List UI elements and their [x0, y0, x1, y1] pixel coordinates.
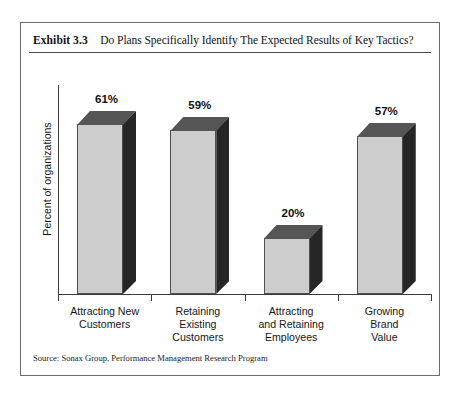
bar-3[interactable]: [264, 225, 323, 294]
bar-front-face: [170, 130, 216, 294]
y-axis-label: Percent of organizations: [41, 89, 53, 269]
category-label-line: Brand: [325, 318, 443, 331]
source-note: Source: Sonax Group, Performance Managem…: [33, 353, 268, 363]
bar-2[interactable]: [170, 117, 229, 294]
category-label-line: Growing: [325, 305, 443, 318]
bar-front-face: [357, 136, 403, 294]
axis-tick: [431, 295, 432, 301]
y-axis-line: [58, 85, 59, 295]
category-label-line: Value: [325, 331, 443, 344]
axis-tick: [338, 295, 339, 301]
bar-1[interactable]: [77, 111, 136, 294]
bar-value-label: 57%: [351, 105, 421, 117]
header-divider: [29, 52, 431, 53]
page-title: Do Plans Specifically Identify The Expec…: [100, 34, 413, 46]
bar-side-face: [403, 123, 416, 294]
bar-value-label: 61%: [72, 93, 142, 105]
axis-tick: [245, 295, 246, 301]
exhibit-frame: Exhibit 3.3 Do Plans Specifically Identi…: [20, 22, 440, 376]
bar-side-face: [123, 111, 136, 294]
chart-plot-area: Percent of organizations 61%59%20%57% At…: [21, 55, 441, 377]
axis-tick: [58, 295, 59, 301]
bar-value-label: 20%: [258, 207, 328, 219]
bar-front-face: [264, 238, 310, 294]
bar-4[interactable]: [357, 123, 416, 294]
bar-value-label: 59%: [165, 99, 235, 111]
bar-front-face: [77, 124, 123, 294]
exhibit-header: Exhibit 3.3 Do Plans Specifically Identi…: [21, 23, 439, 53]
bar-side-face: [216, 117, 229, 294]
axis-tick: [151, 295, 152, 301]
exhibit-number: Exhibit 3.3: [33, 34, 88, 46]
category-label-4: GrowingBrandValue: [325, 305, 443, 345]
